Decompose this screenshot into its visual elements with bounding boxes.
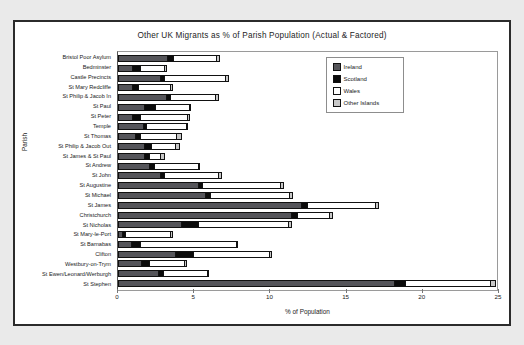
y-axis-tick-label: St Ewen/Leonard/Werburgh [15,271,115,278]
bar-segment-scotland [395,280,406,287]
bar-segment-ireland [118,55,168,62]
bar-segment-wales [141,133,178,140]
y-axis-tick-label: Christchurch [15,212,115,219]
bar-segment-wales [298,212,330,219]
y-axis-tick-label: Westbury-on-Trym [15,261,115,268]
bar-segment-wales [156,104,190,111]
y-axis-tick-label: St John [15,172,115,179]
chart-legend: IrelandScotlandWalesOther Islands [326,57,404,113]
x-axis-tick-label: 25 [495,293,502,300]
bar-row[interactable] [118,280,497,287]
bar-segment-ireland [118,75,161,82]
bar-row[interactable] [118,270,497,277]
bar-row[interactable] [118,104,497,111]
bar-segment-ireland [118,192,206,199]
bar-segment-scotland [145,104,156,111]
x-axis-tick-label: 5 [191,293,194,300]
bar-row[interactable] [118,143,497,150]
bar-row[interactable] [118,241,497,248]
chart-title: Other UK Migrants as % of Parish Populat… [15,31,509,40]
bar-segment-ireland [118,123,144,130]
bar-segment-wales [211,192,290,199]
bar-segment-otherislands [208,270,210,277]
bar-segment-ireland [118,133,136,140]
bar-segment-wales [171,94,215,101]
y-axis-tick-label: St Philip & Jacob Out [15,143,115,150]
bar-segment-wales [199,221,289,228]
bar-row[interactable] [118,212,497,219]
legend-item[interactable]: Other Islands [333,99,399,107]
y-axis-tick-label: Clifton [15,251,115,258]
bar-segment-ireland [118,84,133,91]
bar-segment-wales [194,251,270,258]
bar-row[interactable] [118,75,497,82]
bar-row[interactable] [118,202,497,209]
bar-row[interactable] [118,114,497,121]
bar-segment-wales [155,163,199,170]
bar-row[interactable] [118,84,497,91]
y-axis-tick-label: St Peter [15,113,115,120]
bar-segment-wales [150,153,161,160]
bar-segment-otherislands [188,114,190,121]
bar-segment-scotland [133,65,141,72]
bar-row[interactable] [118,231,497,238]
bar-segment-scotland [182,221,199,228]
bar-segment-wales [164,270,208,277]
legend-label: Ireland [344,64,362,70]
bar-segment-otherislands [165,65,167,72]
bar-segment-otherislands [330,212,333,219]
bar-segment-ireland [118,65,133,72]
bar-segment-wales [174,55,217,62]
bar-segment-ireland [118,280,395,287]
bar-segment-otherislands [171,84,173,91]
bar-row[interactable] [118,260,497,267]
bar-row[interactable] [118,251,497,258]
x-axis-tick-labels: 0510152025 [117,293,498,305]
legend-item[interactable]: Scotland [333,75,399,83]
bar-segment-otherislands [226,75,229,82]
bar-segment-ireland [118,260,142,267]
bar-segment-ireland [118,270,159,277]
bar-row[interactable] [118,172,497,179]
y-axis-tick-label: St Stephen [15,281,115,288]
bar-segment-otherislands [219,172,222,179]
bar-segment-scotland [176,251,194,258]
plot-area [117,51,498,291]
legend-swatch-icon [333,99,341,107]
bar-segment-otherislands [187,123,189,130]
y-axis-tick-label: St James [15,202,115,209]
bar-row[interactable] [118,65,497,72]
bar-segment-otherislands [176,143,181,150]
bar-row[interactable] [118,221,497,228]
bar-row[interactable] [118,133,497,140]
bar-segment-otherislands [185,260,187,267]
legend-item[interactable]: Ireland [333,63,399,71]
x-axis-tick-label: 10 [266,293,273,300]
y-axis-tick-label: St Thomas [15,133,115,140]
bar-segment-otherislands [190,104,192,111]
bar-segment-wales [203,182,281,189]
x-axis-tick-label: 0 [115,293,118,300]
y-axis-tick-labels: Bristol Poor AsylumBedminsterCastle Prec… [15,51,115,291]
chart-panel: Other UK Migrants as % of Parish Populat… [13,20,511,326]
bar-segment-scotland [142,260,150,267]
bar-row[interactable] [118,192,497,199]
bar-row[interactable] [118,182,497,189]
legend-swatch-icon [333,75,341,83]
bar-segment-ireland [118,212,292,219]
y-axis-tick-label: St Andrew [15,162,115,169]
legend-item[interactable]: Wales [333,87,399,95]
bar-row[interactable] [118,153,497,160]
bar-row[interactable] [118,123,497,130]
bar-segment-ireland [118,114,133,121]
bar-segment-otherislands [237,241,239,248]
y-axis-tick-label: Bristol Poor Asylum [15,54,115,61]
bar-segment-otherislands [216,94,219,101]
bar-row[interactable] [118,55,497,62]
bar-row[interactable] [118,94,497,101]
bar-row[interactable] [118,163,497,170]
y-axis-tick-label: St Paul [15,103,115,110]
y-axis-tick-label: Castle Precincts [15,74,115,81]
bar-segment-ireland [118,202,302,209]
y-axis-tick-label: St Mary Redcliffe [15,84,115,91]
